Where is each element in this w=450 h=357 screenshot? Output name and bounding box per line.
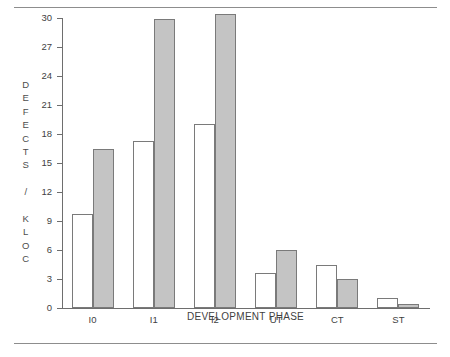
bottom-rule	[14, 343, 437, 344]
bar-ct-light	[316, 265, 337, 309]
y-tick-mark	[57, 192, 62, 193]
bar-st-light	[377, 298, 398, 308]
y-tick-label: 21	[28, 99, 52, 110]
y-tick-mark	[57, 221, 62, 222]
y-tick-label: 6	[28, 244, 52, 255]
y-tick-label: 0	[28, 302, 52, 313]
y-axis-line	[62, 18, 63, 309]
y-tick-label: 3	[28, 273, 52, 284]
y-tick-label: 27	[28, 41, 52, 52]
y-tick-mark	[57, 76, 62, 77]
bar-ut-dark	[276, 250, 297, 308]
x-axis-title: DEVELOPMENT PHASE	[62, 311, 429, 322]
y-tick-label: 15	[28, 157, 52, 168]
y-tick-mark	[57, 47, 62, 48]
plot-area: 036912151821242730 I0I1I2UTCTST	[62, 18, 429, 308]
bar-i1-dark	[154, 19, 175, 308]
figure: D E F E C T S / K L O C 0369121518212427…	[0, 0, 450, 357]
y-tick-mark	[57, 279, 62, 280]
bar-i0-dark	[93, 149, 114, 309]
y-tick-mark	[57, 250, 62, 251]
y-tick-label: 9	[28, 215, 52, 226]
y-tick-mark	[57, 134, 62, 135]
x-axis-line	[62, 308, 430, 309]
y-tick-label: 18	[28, 128, 52, 139]
bar-i2-light	[194, 124, 215, 308]
bar-ct-dark	[337, 279, 358, 308]
y-tick-mark	[57, 308, 62, 309]
bar-i2-dark	[215, 14, 236, 308]
y-tick-label: 24	[28, 70, 52, 81]
bar-i1-light	[133, 141, 154, 308]
bar-i0-light	[72, 214, 93, 308]
bar-ut-light	[255, 273, 276, 308]
top-rule	[14, 7, 437, 8]
y-tick-mark	[57, 105, 62, 106]
bar-st-dark	[398, 304, 419, 308]
y-tick-label: 30	[28, 12, 52, 23]
y-tick-mark	[57, 163, 62, 164]
y-tick-label: 12	[28, 186, 52, 197]
y-tick-mark	[57, 18, 62, 19]
